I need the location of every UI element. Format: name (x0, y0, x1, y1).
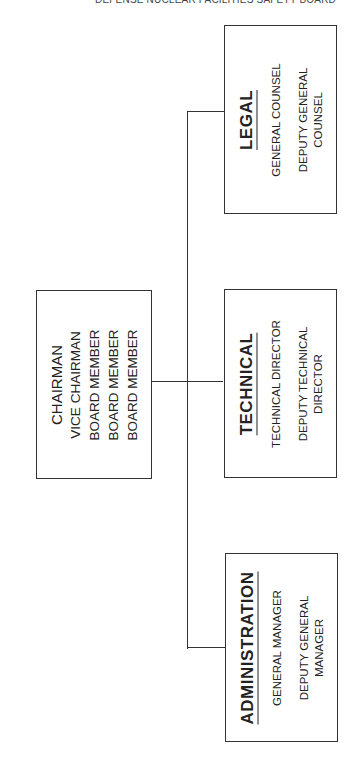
legal-content: LEGAL GENERAL COUNSEL DEPUTY GENERAL COU… (236, 63, 325, 176)
role-general-manager: GENERAL MANAGER (269, 571, 284, 724)
board-member: BOARD MEMBER (85, 329, 104, 440)
dept-title-technical: TECHNICAL (236, 320, 256, 448)
role-deputy-general-counsel-cont: COUNSEL (310, 63, 325, 176)
administration-content: ADMINISTRATION GENERAL MANAGER DEPUTY GE… (237, 571, 326, 724)
board-box: CHAIRMAN VICE CHAIRMAN BOARD MEMBER BOAR… (36, 290, 152, 479)
board-member: BOARD MEMBER (123, 329, 142, 440)
board-member: BOARD MEMBER (104, 329, 123, 440)
administration-box: ADMINISTRATION GENERAL MANAGER DEPUTY GE… (225, 553, 338, 742)
dept-title-administration: ADMINISTRATION (237, 571, 257, 724)
connector-legal (187, 111, 224, 112)
role-technical-director: TECHNICAL DIRECTOR (268, 320, 283, 448)
technical-content: TECHNICAL TECHNICAL DIRECTOR DEPUTY TECH… (236, 320, 325, 448)
role-deputy-technical-director-cont: DIRECTOR (310, 320, 325, 448)
board-member-chairman: CHAIRMAN (47, 329, 66, 440)
board-member-vice-chairman: VICE CHAIRMAN (66, 329, 85, 440)
board-members: CHAIRMAN VICE CHAIRMAN BOARD MEMBER BOAR… (47, 329, 142, 440)
role-general-counsel: GENERAL COUNSEL (268, 63, 283, 176)
technical-box: TECHNICAL TECHNICAL DIRECTOR DEPUTY TECH… (224, 289, 337, 478)
connector-vertical (187, 111, 188, 649)
dept-title-legal: LEGAL (236, 63, 256, 176)
role-deputy-general-manager-cont: MANAGER (311, 571, 326, 724)
document-header: DEFENSE NUCLEAR FACILITIES SAFETY BOARD (95, 0, 335, 5)
role-deputy-general-counsel: DEPUTY GENERAL (295, 63, 310, 176)
connector-administration (187, 647, 225, 648)
role-deputy-general-manager: DEPUTY GENERAL (296, 571, 311, 724)
legal-box: LEGAL GENERAL COUNSEL DEPUTY GENERAL COU… (224, 25, 337, 214)
role-deputy-technical-director: DEPUTY TECHNICAL (295, 320, 310, 448)
connector-board (151, 381, 223, 382)
